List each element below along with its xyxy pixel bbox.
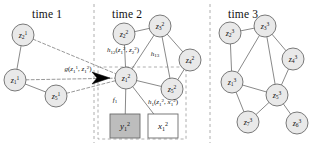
graph-edge (238, 35, 260, 72)
dynamic-graphical-model-figure: time 1time 2time 3z21z11z51z22z32z42z52z… (0, 0, 316, 145)
graph-edge (241, 28, 254, 31)
graph-node-z1_1 (4, 69, 26, 91)
graph-node-z6_3 (286, 112, 308, 134)
graph-edge (135, 28, 150, 31)
graph-edge (178, 69, 184, 79)
graph-edge (124, 45, 125, 67)
graph-edge (162, 37, 170, 78)
graph-edge (230, 44, 231, 71)
figure-canvas (0, 0, 316, 145)
variable-box-x1_2 (148, 114, 178, 138)
graph-edge (236, 92, 244, 112)
graph-edge (267, 37, 275, 84)
graph-node-z2_3 (219, 22, 241, 44)
cross-time-edge (67, 81, 116, 94)
graph-node-z5_3 (266, 84, 288, 106)
graph-edge (256, 102, 269, 114)
graph-edge (17, 46, 21, 69)
observation-edge (125, 89, 126, 114)
graph-node-z1_2 (115, 67, 137, 89)
panel-title-time2: time 2 (112, 8, 142, 20)
graph-edge (243, 85, 267, 92)
observation-edge (133, 87, 154, 114)
graph-edge (137, 81, 162, 87)
graph-node-z3_2 (149, 15, 171, 37)
graph-edge (281, 69, 288, 85)
graph-node-z4_3 (282, 48, 304, 70)
graph-node-z5_1 (45, 85, 67, 107)
graph-node-z2_1 (12, 24, 34, 46)
graph-edge (167, 34, 182, 52)
graph-node-z2_2 (113, 23, 135, 45)
panel-title-time3: time 3 (228, 8, 258, 20)
graph-edge (283, 104, 290, 114)
graph-edge (25, 84, 46, 92)
graph-edge (132, 35, 154, 69)
message-arrow-icon (92, 72, 110, 84)
panel-title-time1: time 1 (32, 8, 62, 20)
graph-node-z7_3 (237, 111, 259, 133)
graph-node-z5_2 (161, 78, 183, 100)
variable-box-y1_2 (110, 114, 140, 138)
cross-time-edge (33, 39, 116, 74)
graph-node-z4_2 (179, 49, 201, 71)
graph-node-z1_3 (221, 71, 243, 93)
graph-edge (272, 34, 286, 50)
